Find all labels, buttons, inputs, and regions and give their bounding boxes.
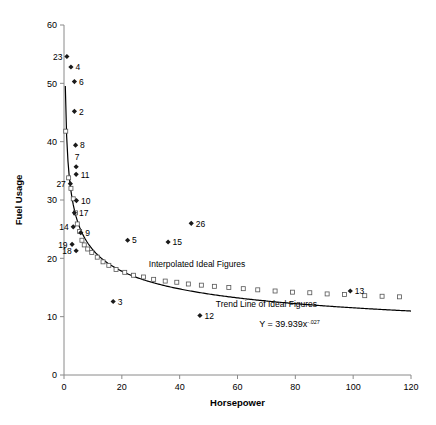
y-tick-label: 50 bbox=[47, 79, 57, 89]
interpolated-point bbox=[80, 238, 84, 242]
trend-line bbox=[65, 86, 411, 311]
data-point-label: 3 bbox=[118, 297, 123, 307]
interpolated-label: Interpolated Ideal Figures bbox=[149, 259, 245, 269]
interpolated-point bbox=[95, 255, 99, 259]
trendline-label: Trend Line of Ideal Figures bbox=[216, 299, 317, 309]
data-point bbox=[74, 172, 79, 177]
data-point-label: 5 bbox=[132, 235, 137, 245]
interpolated-point bbox=[256, 288, 260, 292]
data-point-label: 6 bbox=[79, 77, 84, 87]
interpolated-point bbox=[273, 289, 277, 293]
data-point bbox=[348, 288, 353, 293]
data-point-label: 27 bbox=[56, 179, 66, 189]
data-point bbox=[73, 143, 78, 148]
interpolated-point bbox=[290, 290, 294, 294]
data-point-label: 2 bbox=[79, 107, 84, 117]
data-point bbox=[111, 299, 116, 304]
interpolated-point bbox=[199, 283, 203, 287]
x-tick-label: 80 bbox=[290, 382, 300, 392]
y-tick-label: 10 bbox=[47, 312, 57, 322]
y-tick-label: 40 bbox=[47, 137, 57, 147]
data-point-label: 18 bbox=[62, 246, 72, 256]
data-point-label: 13 bbox=[355, 286, 365, 296]
scatter-plot: 0102030405060020406080100120HorsepowerFu… bbox=[0, 0, 436, 425]
interpolated-point bbox=[75, 222, 79, 226]
trend-line-path bbox=[65, 86, 411, 311]
interpolated-point bbox=[227, 286, 231, 290]
data-point-label: 26 bbox=[196, 219, 206, 229]
interpolated-point bbox=[325, 292, 329, 296]
data-point bbox=[72, 79, 77, 84]
data-point bbox=[197, 313, 202, 318]
data-point bbox=[68, 64, 73, 69]
interpolated-point bbox=[142, 275, 146, 279]
data-point bbox=[74, 164, 79, 169]
interpolated-point bbox=[186, 282, 190, 286]
data-point bbox=[64, 54, 69, 59]
interpolated-point bbox=[114, 267, 118, 271]
x-tick-label: 40 bbox=[175, 382, 185, 392]
y-tick-label: 30 bbox=[47, 195, 57, 205]
data-point bbox=[125, 238, 130, 243]
x-tick-label: 20 bbox=[117, 382, 127, 392]
interpolated-point bbox=[101, 260, 105, 264]
x-tick-label: 100 bbox=[346, 382, 361, 392]
interpolated-point bbox=[69, 186, 73, 190]
x-axis-title: Horsepower bbox=[210, 397, 265, 408]
data-point bbox=[74, 248, 79, 253]
interpolated-point bbox=[82, 243, 86, 247]
interpolated-point bbox=[380, 294, 384, 298]
data-point-label: 11 bbox=[81, 170, 90, 180]
interpolated-point bbox=[64, 129, 68, 133]
interpolated-point bbox=[67, 176, 71, 180]
data-point bbox=[72, 109, 77, 114]
data-point-label: 4 bbox=[75, 62, 80, 72]
data-point-label: 23 bbox=[53, 52, 63, 62]
x-tick-label: 120 bbox=[403, 382, 418, 392]
interpolated-point bbox=[152, 277, 156, 281]
data-point-label: 15 bbox=[173, 237, 183, 247]
interpolated-point bbox=[107, 263, 111, 267]
data-point-label: 14 bbox=[59, 222, 69, 232]
y-tick-label: 20 bbox=[47, 254, 57, 264]
data-point bbox=[189, 221, 194, 226]
data-point-label: 17 bbox=[79, 208, 89, 218]
data-point-label: 9 bbox=[85, 228, 90, 238]
equation: Y = 39.939x-.027 bbox=[259, 319, 320, 330]
x-tick-label: 60 bbox=[232, 382, 242, 392]
data-point bbox=[166, 239, 171, 244]
interpolated-point bbox=[175, 280, 179, 284]
x-tick-label: 0 bbox=[61, 382, 66, 392]
interpolated-point bbox=[241, 287, 245, 291]
y-tick-label: 60 bbox=[47, 20, 57, 30]
data-point bbox=[68, 181, 73, 186]
chart-container: 0102030405060020406080100120HorsepowerFu… bbox=[0, 0, 436, 425]
data-point-label: 12 bbox=[204, 311, 214, 321]
interpolated-series bbox=[64, 129, 402, 299]
y-tick-label: 0 bbox=[52, 370, 57, 380]
data-point-label: 10 bbox=[81, 196, 91, 206]
interpolated-point bbox=[397, 295, 401, 299]
actual-series: 23462871127101714919185152631213 bbox=[53, 52, 365, 321]
interpolated-point bbox=[131, 273, 135, 277]
interpolated-point bbox=[90, 251, 94, 255]
interpolated-point bbox=[212, 284, 216, 288]
data-point-label: 7 bbox=[75, 152, 80, 162]
interpolated-point bbox=[123, 270, 127, 274]
data-point-label: 8 bbox=[80, 140, 85, 150]
y-axis-title: Fuel Usage bbox=[13, 175, 24, 226]
interpolated-point bbox=[342, 293, 346, 297]
interpolated-point bbox=[308, 291, 312, 295]
interpolated-point bbox=[163, 279, 167, 283]
interpolated-point bbox=[86, 247, 90, 251]
